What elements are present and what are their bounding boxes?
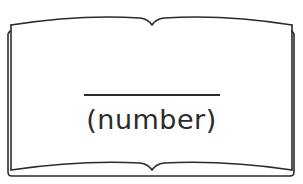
blank-answer-line <box>84 94 220 96</box>
number-label: (number) <box>0 104 303 135</box>
open-book-illustration <box>0 0 303 184</box>
book-bottom-edge <box>11 162 292 170</box>
book-top-edge <box>11 17 292 25</box>
